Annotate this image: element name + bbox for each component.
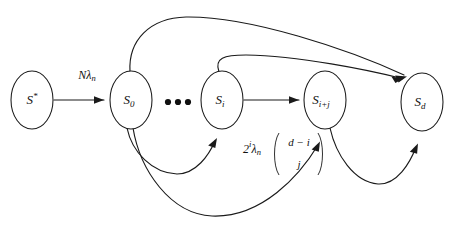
edge-curve bbox=[330, 128, 416, 184]
edge-s0-to-sd bbox=[130, 17, 407, 82]
node-s-star[interactable]: S* bbox=[11, 71, 53, 129]
binom-top-value: d − i bbox=[288, 136, 309, 148]
rate-initial-sub: n bbox=[91, 73, 95, 83]
binom-bottom-value: j bbox=[295, 158, 300, 170]
edge-curve bbox=[130, 17, 404, 75]
arrow-head-icon bbox=[410, 144, 418, 154]
node-label-sub: i+j bbox=[319, 99, 331, 109]
arrow-head-icon bbox=[94, 96, 104, 104]
edge-sstar-to-s0 bbox=[54, 96, 104, 104]
binom-right-paren bbox=[318, 133, 323, 175]
rate-transition-lambda-sub: n bbox=[257, 147, 261, 157]
ellipsis-dot bbox=[175, 99, 181, 105]
edge-si-to-sij bbox=[244, 96, 299, 104]
arrow-head-icon bbox=[208, 138, 217, 148]
edge-sij-to-sd bbox=[330, 128, 418, 184]
edge-curve bbox=[218, 55, 400, 78]
arrow-head-icon bbox=[289, 96, 299, 104]
ellipsis-dot bbox=[185, 99, 191, 105]
node-label-sub: d bbox=[421, 101, 426, 111]
arrow-head-icon bbox=[312, 142, 320, 152]
edge-s0-to-si bbox=[127, 128, 217, 174]
node-s-i[interactable]: Si bbox=[201, 71, 243, 129]
node-s-zero[interactable]: S0 bbox=[110, 71, 152, 129]
node-label-sub: * bbox=[33, 91, 38, 101]
ellipsis-dot bbox=[165, 99, 171, 105]
edge-label-rate-transition: 2iλn d − i j bbox=[243, 133, 322, 175]
node-s-i-plus-j[interactable]: Si+j bbox=[304, 71, 346, 129]
edge-label-rate-initial: Nλn bbox=[77, 68, 95, 83]
ellipsis-dots bbox=[165, 99, 191, 105]
rate-transition-coefficient: 2iλn bbox=[243, 139, 261, 157]
binom-left-paren bbox=[275, 133, 280, 175]
state-transition-diagram: S* S0 Si Si+j Sd Nλn 2iλn bbox=[0, 0, 459, 236]
node-s-d[interactable]: Sd bbox=[401, 73, 443, 131]
edge-curve bbox=[127, 128, 215, 174]
diagram-canvas: S* S0 Si Si+j Sd Nλn 2iλn bbox=[0, 0, 459, 236]
node-label-sub: 0 bbox=[130, 99, 135, 109]
